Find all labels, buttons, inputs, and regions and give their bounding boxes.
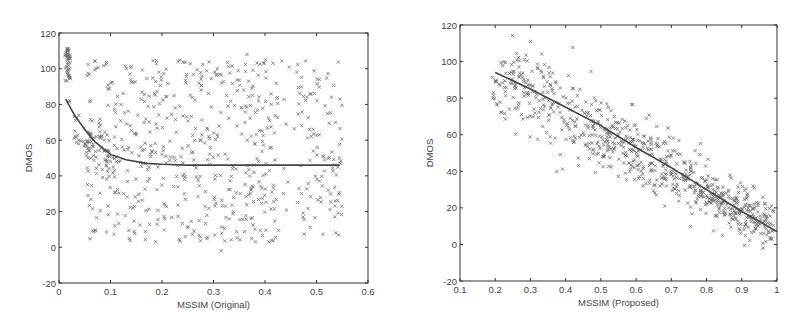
x-tick-label: 0.2 [489,284,502,295]
y-tick-label: 40 [446,166,457,177]
y-tick-label: 0 [452,239,457,250]
y-tick-label: -20 [42,278,56,289]
x-axis-label: MSSIM (Proposed) [578,297,659,308]
x-tick-label: 0.6 [361,286,374,297]
y-tick-label: 20 [446,202,457,213]
y-tick-label: -20 [443,276,457,287]
y-tick-label: 100 [40,63,56,74]
y-tick-label: 80 [45,99,56,110]
scatter-chart-mssim-original: MSSIM (Original) 00.10.20.30.40.50.6-200… [0,0,400,322]
y-tick-label: 100 [441,56,457,67]
x-tick-label: 0.9 [735,284,748,295]
x-tick-label: 0.2 [155,286,168,297]
y-tick-label: 0 [51,242,56,253]
scatter-plot-proposed: 0.10.20.30.40.50.60.70.80.91-20020406080… [400,0,802,322]
y-tick-label: 60 [45,135,56,146]
y-tick-label: 120 [441,20,457,31]
x-tick-label: 0 [56,286,61,297]
y-tick-label: 60 [446,129,457,140]
x-tick-label: 0.5 [594,284,607,295]
x-tick-label: 0.3 [207,286,220,297]
y-tick-label: 80 [446,93,457,104]
x-tick-label: 0.6 [630,284,643,295]
x-tick-label: 0.7 [665,284,678,295]
y-tick-label: 120 [40,28,56,39]
x-tick-label: 0.3 [524,284,537,295]
x-tick-label: 0.4 [559,284,572,295]
plot-frame [460,25,777,281]
y-tick-label: 40 [45,170,56,181]
y-tick-label: 20 [45,206,56,217]
x-tick-label: 0.4 [258,286,271,297]
data-points [491,34,775,250]
x-tick-label: 0.8 [700,284,713,295]
x-tick-label: 1 [774,284,779,295]
x-axis-label: MSSIM (Original) [177,299,250,310]
y-axis-label: DMOS [23,144,34,173]
scatter-chart-mssim-proposed: MSSIM (Proposed) 0.10.20.30.40.50.60.70.… [400,0,802,322]
y-axis-label: DMOS [424,139,435,168]
x-tick-label: 0.1 [104,286,117,297]
y-axis-ticks: -20020406080100120 [40,28,368,289]
y-axis-ticks: -20020406080100120 [441,20,777,287]
scatter-plot-original: 00.10.20.30.40.50.6-20020406080100120MSS… [0,0,400,322]
x-tick-label: 0.5 [310,286,323,297]
